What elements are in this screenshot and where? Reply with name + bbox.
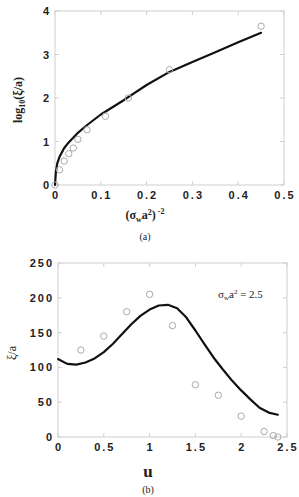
x-tick-label: 1 bbox=[147, 441, 155, 453]
chart-a: 00.10.20.30.40.501234 bbox=[43, 5, 296, 201]
data-point-marker bbox=[101, 333, 107, 339]
figure: 00.10.20.30.40.50123400.511.522.50501001… bbox=[0, 0, 299, 497]
data-point-marker bbox=[84, 127, 90, 133]
x-tick-label: 1.5 bbox=[186, 441, 207, 453]
data-point-marker bbox=[261, 428, 267, 434]
data-point-marker bbox=[75, 136, 81, 142]
y-tick-label: 0 bbox=[46, 431, 54, 443]
y-tick-label: 50 bbox=[38, 396, 54, 408]
y-tick-label: 200 bbox=[30, 292, 54, 304]
data-point-marker bbox=[78, 347, 84, 353]
x-axis-label-b: u bbox=[143, 462, 152, 481]
y-tick-label: 2 bbox=[43, 92, 51, 104]
y-tick-label: 3 bbox=[43, 49, 51, 61]
data-point-marker bbox=[102, 113, 108, 119]
x-tick-label: 0.2 bbox=[137, 189, 158, 201]
data-point-marker bbox=[192, 382, 198, 388]
y-tick-label: 4 bbox=[43, 5, 51, 17]
data-point-marker bbox=[258, 23, 264, 29]
x-tick-label: 0.4 bbox=[229, 189, 250, 201]
data-point-marker bbox=[70, 145, 76, 151]
annotation-sigma: σwa2 = 2.5 bbox=[218, 288, 263, 302]
y-axis-label-a: log10(ξ/a) bbox=[11, 77, 27, 123]
data-point-marker bbox=[215, 392, 221, 398]
x-tick-label: 0.5 bbox=[274, 189, 295, 201]
data-point-marker bbox=[169, 322, 175, 328]
y-tick-label: 150 bbox=[30, 327, 54, 339]
data-point-marker bbox=[61, 158, 67, 164]
data-point-marker bbox=[238, 413, 244, 419]
x-tick-label: 0 bbox=[52, 189, 60, 201]
caption-a: (a) bbox=[139, 231, 150, 243]
theory-curve bbox=[55, 33, 261, 185]
x-tick-label: 0.1 bbox=[91, 189, 112, 201]
x-tick-label: 2 bbox=[238, 441, 246, 453]
x-tick-label: 0.5 bbox=[94, 441, 115, 453]
data-point-marker bbox=[146, 291, 152, 297]
y-tick-label: 100 bbox=[30, 361, 54, 373]
x-axis-label-a: (σwa2)-2 bbox=[126, 207, 165, 224]
caption-b: (b) bbox=[142, 484, 154, 496]
x-tick-label: 2.5 bbox=[277, 441, 298, 453]
y-tick-label: 0 bbox=[43, 179, 51, 191]
y-tick-label: 250 bbox=[30, 257, 54, 269]
x-tick-label: 0 bbox=[55, 441, 63, 453]
theory-curve bbox=[58, 305, 278, 415]
y-tick-label: 1 bbox=[43, 136, 51, 148]
data-point-marker bbox=[66, 150, 72, 156]
y-axis-label-b: ξ/a bbox=[5, 345, 19, 360]
data-point-marker bbox=[124, 309, 130, 315]
chart-b: 00.511.522.5050100150200250 bbox=[30, 257, 299, 453]
x-tick-label: 0.3 bbox=[183, 189, 204, 201]
